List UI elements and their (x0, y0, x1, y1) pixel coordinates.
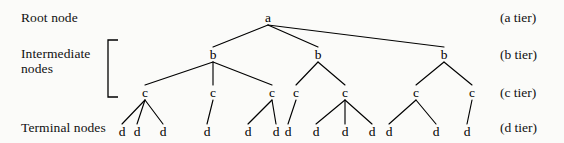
tree-node-c1: c (142, 85, 148, 100)
tree-edge (416, 100, 436, 124)
tree-edge (288, 100, 296, 124)
tree-node-c6: c (413, 85, 419, 100)
tree-node-c5: c (342, 85, 348, 100)
tree-edge (145, 62, 213, 85)
tier-label-a: (a tier) (500, 10, 536, 25)
tree-node-b3: b (441, 47, 448, 62)
tree-edge (207, 100, 213, 124)
tree-node-d2: d (134, 124, 141, 139)
tree-node-d12: d (433, 124, 440, 139)
tree-node-d9: d (342, 124, 349, 139)
tree-node-a1: a (265, 10, 271, 25)
tree-edge (416, 62, 444, 85)
tree-node-d1: d (119, 124, 126, 139)
tier-label-d: (d tier) (500, 120, 537, 135)
tree-node-c4: c (293, 85, 299, 100)
tree-edge (444, 62, 472, 85)
tree-edge (213, 25, 268, 47)
tree-node-d8: d (313, 124, 320, 139)
tree-node-c3: c (269, 85, 275, 100)
tree-edge (296, 62, 318, 85)
tree-node-d10: d (369, 124, 376, 139)
tree-node-d7: d (285, 124, 292, 139)
tree-node-d13: d (464, 124, 471, 139)
node-layer: abbbcccccccddddddddddddd (119, 10, 475, 139)
label-root-node: Root node (21, 10, 78, 25)
tree-edge (316, 100, 345, 124)
label-terminal-nodes: Terminal nodes (21, 120, 106, 135)
edge-layer (122, 25, 472, 124)
tree-node-b1: b (210, 47, 217, 62)
tree-edge (145, 100, 163, 124)
tree-node-c7: c (469, 85, 475, 100)
label-intermediate-line-1: Intermediate (21, 46, 90, 61)
tree-edge (213, 62, 272, 85)
tree-edge (248, 100, 272, 124)
tree-edge (389, 100, 416, 124)
tree-edge (345, 100, 372, 124)
label-intermediate-nodes: Intermediate nodes (21, 46, 90, 76)
label-intermediate-line-2: nodes (21, 61, 90, 76)
tier-label-b: (b tier) (500, 47, 537, 62)
tree-node-b2: b (315, 47, 322, 62)
tree-node-d5: d (245, 124, 252, 139)
tree-edge (272, 100, 276, 124)
intermediate-nodes-bracket (108, 40, 118, 97)
tree-node-d6: d (273, 124, 280, 139)
tree-edge (318, 62, 345, 85)
tree-diagram-figure: abbbcccccccddddddddddddd Root node Inter… (0, 0, 564, 143)
tier-label-c: (c tier) (500, 85, 536, 100)
tree-node-d11: d (386, 124, 393, 139)
tree-node-c2: c (210, 85, 216, 100)
tree-edge (467, 100, 472, 124)
tree-node-d3: d (160, 124, 167, 139)
tree-node-d4: d (204, 124, 211, 139)
